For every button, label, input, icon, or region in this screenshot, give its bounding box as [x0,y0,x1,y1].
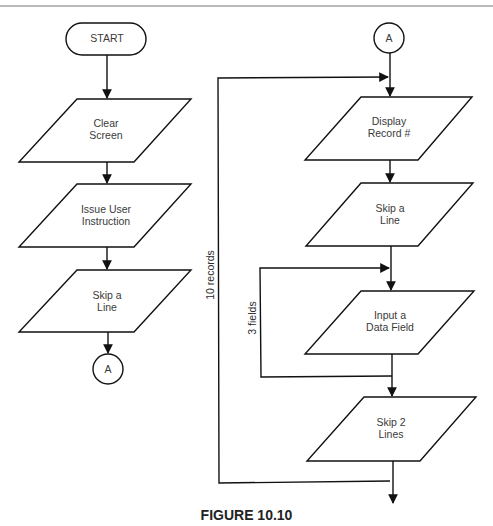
input-data-field-line1: Input a [374,309,406,321]
skip-two-lines-line1: Skip 2 [376,416,405,428]
inner-loop-label: 3 fields [246,301,258,334]
clear-screen-line2: Screen [89,129,122,141]
start-label: START [90,32,124,44]
input-data-field-line2: Data Field [366,321,414,333]
figure-caption: FIGURE 10.10 [0,507,493,523]
clear-screen-line1: Clear [93,117,119,129]
display-record-line1: Display [372,115,407,127]
issue-instruction-line2: Instruction [82,215,131,227]
connector-a-right-label: A [385,32,392,44]
outer-loop-label: 10 records [204,250,216,300]
skip-line-left-line1: Skip a [92,289,121,301]
connector-a-left-label: A [104,363,111,375]
skip-line-right-line1: Skip a [375,202,404,214]
display-record-line2: Record # [368,127,411,139]
skip-line-left-line2: Line [97,301,117,313]
issue-instruction-line1: Issue User [81,203,132,215]
flowchart-canvas: START Clear Screen Issue User Instructio… [0,0,493,526]
skip-two-lines-line2: Lines [378,428,403,440]
skip-line-right-line2: Line [380,214,400,226]
